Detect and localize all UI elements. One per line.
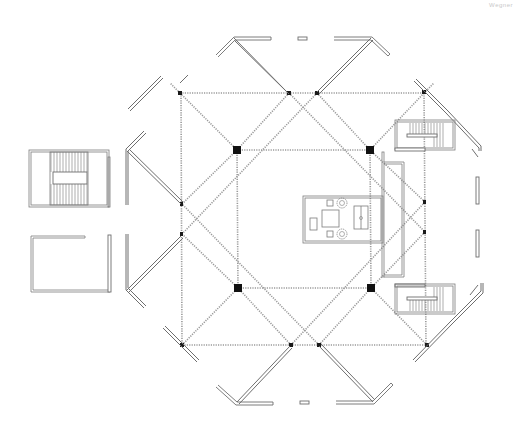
column-large (367, 284, 375, 292)
column-large (366, 146, 374, 154)
stool (327, 200, 333, 206)
round-chair (337, 229, 347, 239)
round-chair (337, 198, 347, 208)
structural-grid (170, 83, 434, 345)
column-large (233, 146, 241, 154)
stool (327, 231, 333, 237)
column-large (234, 284, 242, 292)
floor-plan (0, 0, 519, 427)
side-cabinet (310, 218, 317, 230)
stair-core-left (29, 150, 110, 207)
room-left-lower (31, 235, 111, 292)
table (322, 210, 339, 227)
central-partition (382, 152, 404, 277)
